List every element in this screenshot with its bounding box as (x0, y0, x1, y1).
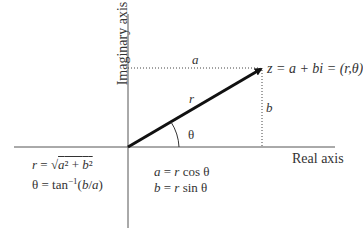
formula-theta: θ = tan−1(b/a) (32, 174, 103, 192)
projection-b-label: b (266, 100, 273, 115)
vector-r (128, 69, 261, 147)
imaginary-axis-label: Imaginary axis (115, 0, 130, 94)
formula-a: a = r cos θ (154, 164, 209, 179)
angle-theta-label: θ (188, 127, 194, 142)
real-axis-label: Real axis (292, 151, 344, 166)
formula-r: r = √a² + b² (32, 157, 93, 172)
point-label: z = a + bi = (r,θ) (267, 61, 363, 76)
formula-b: b = r sin θ (154, 180, 207, 195)
angle-arc (171, 122, 179, 147)
vector-r-label: r (189, 91, 194, 106)
projection-a-label: a (192, 52, 199, 67)
